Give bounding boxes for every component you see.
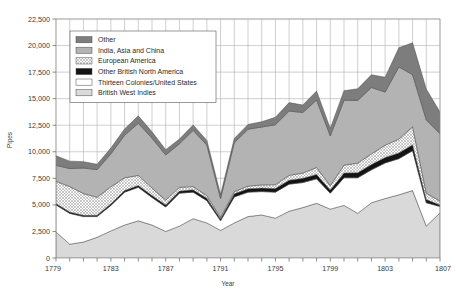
y-axis-label: Pipes <box>6 132 14 148</box>
legend-label: India, Asia and China <box>98 47 164 54</box>
y-tick-label: 0 <box>46 254 50 263</box>
x-tick-label: 1783 <box>103 264 119 273</box>
y-tick-label: 5,000 <box>32 200 50 209</box>
legend-swatch-thirteen-colonies-united-states-swatch <box>76 79 92 85</box>
y-tick-label: 10,000 <box>28 147 50 156</box>
legend-label: Other British North America <box>98 68 183 75</box>
x-tick-label: 1807 <box>435 264 451 273</box>
x-tick-label: 1803 <box>377 264 393 273</box>
legend-swatch-european-america-swatch <box>76 58 92 64</box>
legend-label: European America <box>98 57 156 65</box>
y-tick-label: 22,500 <box>28 15 50 24</box>
y-tick-label: 2,500 <box>32 227 50 236</box>
stacked-area-chart: 02,5005,0007,50010,00012,50015,00017,500… <box>0 0 456 296</box>
x-axis-label: Year <box>222 280 236 287</box>
x-tick-label: 1791 <box>213 264 229 273</box>
legend-label: British West Indies <box>98 89 156 96</box>
x-tick-label: 1799 <box>322 264 338 273</box>
y-tick-label: 15,000 <box>28 94 50 103</box>
legend-label: Other <box>98 36 116 43</box>
legend-swatch-other-swatch <box>76 37 92 43</box>
x-tick-label: 1795 <box>267 264 283 273</box>
chart-legend: OtherIndia, Asia and ChinaEuropean Ameri… <box>70 31 216 103</box>
chart-root: 02,5005,0007,50010,00012,50015,00017,500… <box>0 0 456 296</box>
y-tick-label: 7,500 <box>32 174 50 183</box>
y-tick-label: 17,500 <box>28 68 50 77</box>
legend-swatch-other-british-north-america-swatch <box>76 68 92 74</box>
y-tick-label: 20,000 <box>28 41 50 50</box>
legend-swatch-india-asia-china-swatch <box>76 47 92 53</box>
y-tick-label: 12,500 <box>28 121 50 130</box>
legend-label: Thirteen Colonies/United States <box>98 79 197 86</box>
x-tick-label: 1787 <box>158 264 174 273</box>
x-tick-label: 1779 <box>45 264 61 273</box>
legend-swatch-british-west-indies-swatch <box>76 90 92 96</box>
